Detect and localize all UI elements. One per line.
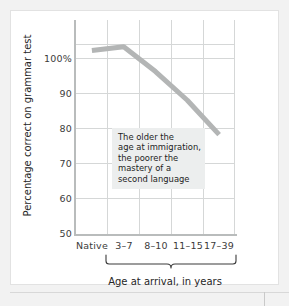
chart-figure: 100% 90 80 70 60 50 Percentage correct o… <box>0 0 289 306</box>
page-divider-tick <box>264 292 265 306</box>
x-tick-label: 17–39 <box>196 240 242 251</box>
x-axis-title: Age at arrival, in years <box>70 276 260 287</box>
data-series-line <box>76 20 235 234</box>
x-axis-line <box>74 234 237 236</box>
page-divider <box>10 292 289 293</box>
y-tick-label: 100% <box>28 53 72 64</box>
annotation-line: The older the <box>118 132 200 142</box>
y-axis-title: Percentage correct on grammar test <box>22 31 33 221</box>
y-tick-label: 50 <box>28 228 72 239</box>
y-tick-label: 70 <box>28 158 72 169</box>
y-tick-label: 60 <box>28 193 72 204</box>
annotation-line: mastery of a <box>118 163 200 173</box>
y-tick-label: 80 <box>28 123 72 134</box>
y-tick-label: 90 <box>28 88 72 99</box>
plot-area <box>76 20 235 234</box>
annotation-line: age at immigration, <box>118 142 200 152</box>
annotation-line: the poorer the <box>118 153 200 163</box>
group-brace-icon <box>105 254 237 270</box>
annotation-line: second language <box>118 174 200 184</box>
annotation-callout: The older the age at immigration, the po… <box>112 128 205 189</box>
